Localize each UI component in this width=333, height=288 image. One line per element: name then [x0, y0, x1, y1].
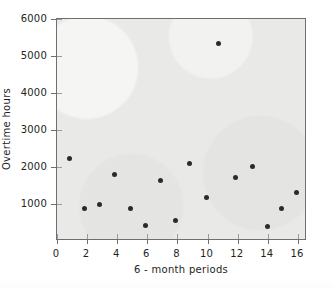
x-tick-mark: [208, 239, 209, 244]
plot-texture: [57, 19, 305, 239]
x-tick-label: 14: [260, 248, 273, 259]
scan-edge-artifact: [0, 278, 333, 288]
y-tick-label: 4000: [21, 87, 47, 98]
y-tick-label: 1000: [21, 198, 47, 209]
y-tick-label: 6000: [21, 13, 47, 24]
x-tick-label: 8: [173, 248, 180, 259]
data-point: [82, 206, 87, 211]
x-tick-mark-inner: [177, 234, 178, 239]
y-tick-label: 5000: [21, 50, 47, 61]
x-tick-mark-inner: [238, 234, 239, 239]
data-point: [187, 161, 192, 166]
x-tick-label: 2: [83, 248, 90, 259]
data-point: [97, 202, 102, 207]
x-tick-label: 0: [53, 248, 60, 259]
y-axis-title: Overtime hours: [1, 88, 12, 170]
data-point: [67, 156, 72, 161]
x-tick-mark: [238, 239, 239, 244]
x-tick-label: 12: [230, 248, 243, 259]
data-point: [158, 178, 163, 183]
scatter-chart-figure: Overtime hours 100020003000400050006000 …: [0, 0, 333, 288]
data-point: [128, 206, 133, 211]
y-tick-mark-inner: [57, 204, 62, 205]
x-tick-mark-inner: [298, 234, 299, 239]
x-tick-mark-inner: [87, 234, 88, 239]
y-tick-label: 3000: [21, 124, 47, 135]
x-tick-mark: [87, 239, 88, 244]
x-tick-mark-inner: [117, 234, 118, 239]
x-tick-label: 4: [113, 248, 120, 259]
data-point: [204, 195, 209, 200]
x-tick-mark: [268, 239, 269, 244]
x-tick-label: 16: [290, 248, 303, 259]
y-tick-mark-inner: [57, 19, 62, 20]
data-point: [265, 224, 270, 229]
data-point: [216, 41, 221, 46]
x-tick-mark: [147, 239, 148, 244]
y-tick-mark-inner: [57, 56, 62, 57]
x-tick-label: 6: [143, 248, 150, 259]
data-point: [233, 175, 238, 180]
y-tick-mark-inner: [57, 93, 62, 94]
data-point: [143, 223, 148, 228]
x-tick-mark: [57, 239, 58, 244]
data-point: [279, 206, 284, 211]
x-tick-mark-inner: [57, 234, 58, 239]
data-point: [250, 164, 255, 169]
data-point: [173, 218, 178, 223]
x-tick-mark: [298, 239, 299, 244]
x-tick-mark-inner: [268, 234, 269, 239]
x-tick-mark-inner: [147, 234, 148, 239]
data-point: [294, 190, 299, 195]
plot-area: [56, 18, 306, 240]
y-tick-mark-inner: [57, 167, 62, 168]
x-tick-mark-inner: [208, 234, 209, 239]
x-tick-label: 10: [200, 248, 213, 259]
y-tick-mark-inner: [57, 130, 62, 131]
y-tick-label: 2000: [21, 161, 47, 172]
x-tick-mark: [117, 239, 118, 244]
data-point: [112, 172, 117, 177]
x-tick-mark: [177, 239, 178, 244]
x-axis-title: 6 - month periods: [134, 264, 228, 275]
